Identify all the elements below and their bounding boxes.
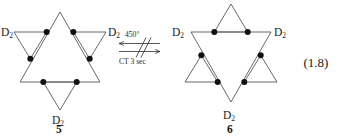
compound-5-vertex-dot — [27, 56, 33, 62]
equation-number: (1.8) — [304, 55, 329, 70]
compound-6-label-bottom: D2 — [223, 109, 235, 123]
reaction-condition-above: 450° — [125, 30, 139, 39]
compound-5-large-triangle — [20, 12, 100, 82]
compound-5-label-upper-left: D2 — [1, 26, 13, 40]
compound-5-vertex-dot — [70, 29, 76, 35]
compound-6-label-upper-left: D2 — [172, 26, 184, 40]
compound-5-label-upper-right: D2 — [108, 26, 120, 40]
arrow-slash-icon — [141, 38, 151, 58]
reaction-condition-below: CT 3 sec — [119, 57, 146, 66]
compound-5-vertex-dot — [74, 79, 80, 85]
compound-6-vertex-dot — [211, 29, 217, 35]
compound-6-small-triangle-top — [214, 4, 247, 32]
compound-5-small-triangle-upper-left — [14, 32, 47, 59]
arrow-slash-icon — [136, 38, 146, 58]
compound-6-small-triangle-lower-left — [185, 55, 218, 82]
compound-6-vertex-dot — [198, 52, 204, 58]
compound-5-small-triangle-upper-right — [73, 32, 106, 59]
compound-6-vertex-dot — [215, 79, 221, 85]
compound-5-vertex-dot — [40, 79, 46, 85]
compound-6-small-triangle-lower-right — [244, 55, 277, 82]
compound-5-vertex-dot — [44, 29, 50, 35]
compound-5-vertex-dot — [87, 56, 93, 62]
reaction-arrow-group: 450° CT 3 sec — [119, 30, 160, 67]
compound-6-number: 6 — [227, 123, 233, 135]
compound-6-vertex-dot — [241, 79, 247, 85]
compound-6-large-triangle — [191, 32, 271, 102]
compound-6-vertex-dot — [258, 52, 264, 58]
compound-6-vertex-dot — [245, 29, 251, 35]
compound-5-number: 5 — [56, 123, 62, 135]
compound-6-label-upper-right: D2 — [274, 26, 286, 40]
compound-5-structure: D2 D2 D2 — [1, 12, 120, 128]
reaction-scheme-figure: D2 D2 D2 5 450° CT 3 sec — [0, 0, 360, 140]
compound-6-structure: D2 D2 D2 — [172, 4, 286, 123]
compound-5-small-triangle-bottom — [43, 82, 76, 110]
